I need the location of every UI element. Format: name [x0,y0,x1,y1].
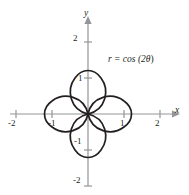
polar-rose-figure: -2 -1 1 2 2 1 -1 -2 x y r = cos (2θ) [0,0,189,195]
equation-close-paren: ) [150,54,153,64]
x-axis-label: x [175,106,179,116]
plot-canvas [0,0,189,195]
x-tick-label--1: -1 [48,119,56,128]
y-tick-label-2: 2 [73,34,78,43]
y-tick-label--2: -2 [73,176,81,185]
equation-variable-r: r = cos (2 [108,54,146,64]
equation-annotation: r = cos (2θ) [108,55,154,65]
y-tick-label--1: -1 [74,137,82,146]
x-tick-label-2: 2 [155,119,160,128]
x-tick-label-1: 1 [120,119,125,128]
y-axis-label: y [84,9,88,19]
x-tick-label--2: -2 [8,119,16,128]
y-tick-label-1: 1 [78,74,83,83]
